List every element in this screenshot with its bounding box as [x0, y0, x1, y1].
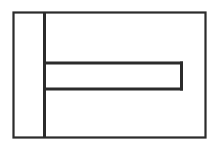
- line-drawing-svg: [0, 0, 220, 149]
- technical-drawing-canvas: [0, 0, 220, 149]
- drawing-background: [0, 0, 220, 149]
